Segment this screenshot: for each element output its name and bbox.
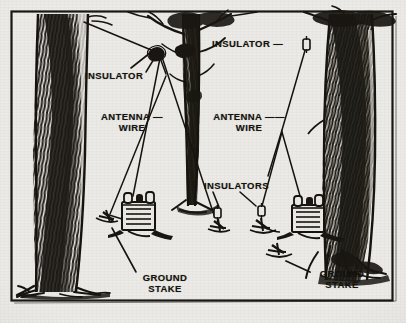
antenna-wire-label-left: ANTENNA — WIRE [92,111,172,133]
antenna-diagram-figure: INSULATOR INSULATOR — ANTENNA — WIRE ANT… [0,0,406,323]
insulator-label-right: INSULATOR — [212,38,308,49]
ground-stake-4 [266,243,292,257]
ground-stake-2 [208,219,230,232]
antenna-wire-label-right: ANTENNA —— WIRE [203,111,295,133]
insulators-label: INSULATORS [204,180,288,191]
insulator-label-left: INSULATOR [85,70,157,81]
tree-left [17,10,112,300]
tree-right [304,6,396,290]
ground-stake-3 [250,218,280,233]
ground-stake-label-left: GROUND STAKE [133,272,197,294]
ground-stake-label-right: GROUND STAKE [310,268,374,290]
insulator-lower-b [258,203,265,220]
